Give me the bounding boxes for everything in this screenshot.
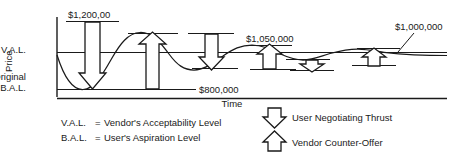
negotiation-diagram: $1,200,00 $800,000 $1,050,000 $1,000,000… [0, 0, 456, 160]
axis-group [57, 17, 447, 99]
definition-val-text: Vendor's Acceptability Level [104, 117, 221, 128]
definition-bal: B.A.L. = User's Aspiration Level [61, 132, 200, 143]
legend-item-vendor-counter: Vendor Counter-Offer [263, 131, 383, 151]
arrow-up-icon [263, 131, 286, 151]
callout-offer-5: $1,000,000 [395, 21, 443, 32]
callout-bal-value: $800,000 [199, 84, 239, 95]
x-axis-label: Time [222, 98, 243, 109]
callout-offer-3: $1,050,000 [246, 33, 294, 44]
definition-bal-equals: = [95, 132, 101, 143]
arrow-down-icon [263, 108, 286, 128]
legend-label-vendor-counter: Vendor Counter-Offer [292, 137, 383, 148]
definition-bal-term: B.A.L. [61, 132, 87, 143]
vendor-counter-arrow-4 [257, 44, 282, 69]
bal-axis-label: B.A.L. [0, 82, 26, 93]
definition-bal-text: User's Aspiration Level [104, 132, 200, 143]
callout-leader-line [398, 33, 414, 52]
y-axis-label: Price [3, 50, 14, 72]
vendor-counter-arrow-6 [362, 48, 386, 66]
definition-val-term: V.A.L. [61, 117, 86, 128]
definition-val: V.A.L. = Vendor's Acceptability Level [61, 117, 221, 128]
legend-label-user-thrust: User Negotiating Thrust [292, 112, 393, 123]
definition-val-equals: = [95, 117, 101, 128]
callout-offer-1: $1,200,00 [68, 9, 110, 20]
diagram-canvas: $1,200,00 $800,000 $1,050,000 $1,000,000… [0, 0, 456, 160]
vendor-counter-arrow-2 [139, 32, 166, 89]
legend-item-user-thrust: User Negotiating Thrust [263, 108, 393, 128]
user-thrust-arrow-1 [79, 22, 106, 89]
